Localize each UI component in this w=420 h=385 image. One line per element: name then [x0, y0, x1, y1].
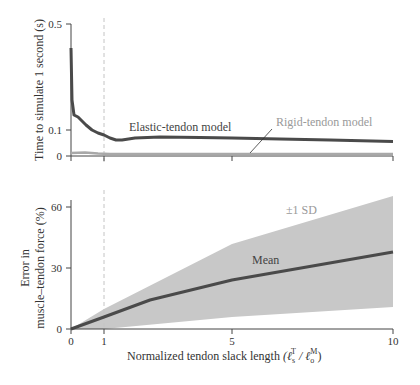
bottom-y-label-line2: muscle–tendon force (%): [33, 207, 47, 328]
tick-x-1: 1: [101, 335, 107, 347]
tick-0: 0: [57, 150, 63, 162]
tick-30: 30: [51, 262, 63, 274]
top-panel: 0.5 0.1 0 Time to simulate 1 second (s) …: [32, 18, 393, 163]
tick-0.1: 0.1: [48, 124, 62, 136]
tick-x-0: 0: [68, 335, 74, 347]
rigid-tendon-label: Rigid-tendon model: [276, 115, 373, 129]
mean-label: Mean: [252, 253, 279, 267]
tick-x-10: 10: [388, 335, 400, 347]
rigid-label-pointer: [250, 129, 272, 153]
tick-0.5: 0.5: [48, 18, 62, 30]
rigid-tendon-line: [71, 153, 393, 155]
sd-label: ±1 SD: [286, 203, 317, 217]
top-y-label: Time to simulate 1 second (s): [32, 19, 46, 161]
figure: 0.5 0.1 0 Time to simulate 1 second (s) …: [0, 0, 420, 385]
sd-band: [71, 196, 393, 329]
x-axis-label: Normalized tendon slack length (ℓsT / ℓo…: [127, 347, 321, 365]
tick-0-bottom: 0: [57, 323, 63, 335]
bottom-panel: 60 30 0 0 1 5 10 Error in muscle–tendon …: [18, 190, 399, 365]
tick-x-5: 5: [229, 335, 235, 347]
bottom-y-label-line1: Error in: [18, 249, 32, 287]
elastic-tendon-label: Elastic-tendon model: [129, 120, 232, 134]
tick-60: 60: [51, 201, 63, 213]
